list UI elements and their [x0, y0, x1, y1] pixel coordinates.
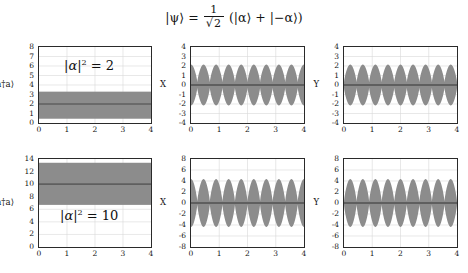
panel-n-alpha10-annotation: |α|2 = 10: [60, 208, 118, 223]
panel-y-alpha10-ytick-6: 4: [321, 177, 339, 185]
panel-y-alpha2-xtick-1: 1: [362, 126, 382, 134]
panel-n-alpha10-ytick-3: 6: [16, 205, 34, 213]
panel-n-alpha10-xtick-4: 4: [141, 250, 161, 258]
panel-x-alpha10-ytick-4: 0: [168, 199, 186, 207]
panel-n-alpha2-ytick-6: 6: [16, 62, 34, 70]
radicand: 2: [213, 16, 222, 30]
panel-x-alpha2-xtick-2: 2: [238, 126, 258, 134]
panel-x-alpha2-ytick-3: -1: [168, 91, 186, 99]
panel-n-alpha10-ytick-2: 4: [16, 218, 34, 226]
panel-y-alpha10-ytick-4: 0: [321, 199, 339, 207]
panel-x-alpha2-xtick-1: 1: [209, 126, 229, 134]
panel-y-alpha10-xtick-2: 2: [391, 250, 411, 258]
radical-sign: √: [206, 16, 213, 30]
panel-y-alpha10-plot-area[interactable]: [343, 158, 458, 248]
panel-y-alpha10-xtick-0: 0: [334, 250, 354, 258]
panel-x-alpha2-xtick-0: 0: [181, 126, 201, 134]
panel-n-alpha2-xtick-0: 0: [29, 126, 49, 134]
panel-x-alpha2-xtick-3: 3: [266, 126, 286, 134]
panel-n-alpha10-xtick-3: 3: [113, 250, 133, 258]
panel-y-alpha10-xtick-3: 3: [419, 250, 439, 258]
superposition-expression: (|α⟩ + |−α⟩): [229, 10, 303, 25]
panel-x-alpha10-ylabel: X: [130, 197, 166, 207]
equals-sign: =: [188, 10, 198, 25]
panel-n-alpha2-xtick-4: 4: [141, 126, 161, 134]
panel-x-alpha2-ytick-5: 1: [168, 72, 186, 80]
panel-x-alpha10-ytick-2: -4: [168, 221, 186, 229]
panel-x-alpha2-ytick-7: 3: [168, 53, 186, 61]
panel-n-alpha2-ytick-2: 2: [16, 100, 34, 108]
panel-y-alpha2-xtick-2: 2: [391, 126, 411, 134]
panel-y-alpha2-xtick-4: 4: [447, 126, 467, 134]
ket-psi: |ψ⟩: [165, 10, 184, 25]
panel-y-alpha10-ytick-3: -2: [321, 210, 339, 218]
panel-y-alpha10-xtick-4: 4: [447, 250, 467, 258]
panel-n-alpha2-ytick-5: 5: [16, 72, 34, 80]
panel-n-alpha2-ytick-3: 3: [16, 91, 34, 99]
panel-x-alpha10-ytick-3: -2: [168, 210, 186, 218]
panel-y-alpha2-plot-area[interactable]: [343, 46, 458, 124]
panel-y-alpha2-xtick-3: 3: [419, 126, 439, 134]
panel-y-alpha10-ylabel: Y: [283, 197, 319, 207]
panel-y-alpha2-ytick-6: 2: [321, 62, 339, 70]
panel-y-alpha2-ytick-4: 0: [321, 81, 339, 89]
panel-n-alpha10-xtick-2: 2: [85, 250, 105, 258]
panel-x-alpha2-ylabel: X: [130, 79, 166, 89]
panel-x-alpha10-xtick-0: 0: [181, 250, 201, 258]
panel-n-alpha2-ylabel: ⟨a†a⟩: [0, 79, 14, 89]
panel-n-alpha10-ytick-6: 12: [16, 168, 34, 176]
panel-x-alpha10-ytick-6: 4: [168, 177, 186, 185]
panel-y-alpha2-xtick-0: 0: [334, 126, 354, 134]
panel-y-alpha2-ytick-5: 1: [321, 72, 339, 80]
panel-n-alpha10-ytick-5: 10: [16, 180, 34, 188]
panel-y-alpha10-ytick-1: -6: [321, 232, 339, 240]
panel-x-alpha10-xtick-4: 4: [294, 250, 314, 258]
panel-n-alpha2-xtick-1: 1: [57, 126, 77, 134]
panel-n-alpha2-annotation: |α|2 = 2: [64, 58, 114, 73]
panel-x-alpha10-xtick-1: 1: [209, 250, 229, 258]
panel-x-alpha2-ytick-8: 4: [168, 43, 186, 51]
title-equation: |ψ⟩ = 1 √2 (|α⟩ + |−α⟩): [0, 4, 468, 30]
panel-y-alpha2-ytick-1: -3: [321, 110, 339, 118]
panel-n-alpha10-xtick-0: 0: [29, 250, 49, 258]
panel-n-alpha2-ytick-4: 4: [16, 81, 34, 89]
panel-y-alpha10-xtick-1: 1: [362, 250, 382, 258]
panel-n-alpha10-ytick-1: 2: [16, 230, 34, 238]
fraction-denominator: √2: [204, 17, 224, 30]
panel-y-alpha2-ytick-8: 4: [321, 43, 339, 51]
panel-n-alpha2-xtick-2: 2: [85, 126, 105, 134]
panel-y-alpha2-ytick-7: 3: [321, 53, 339, 61]
panel-x-alpha10-xtick-3: 3: [266, 250, 286, 258]
panel-x-alpha10-ytick-8: 8: [168, 155, 186, 163]
figure-root: |ψ⟩ = 1 √2 (|α⟩ + |−α⟩) 012345678⟨a†a⟩01…: [0, 0, 468, 273]
panel-y-alpha2-ytick-2: -2: [321, 100, 339, 108]
panel-x-alpha10-ytick-7: 6: [168, 166, 186, 174]
panel-n-alpha2-ytick-1: 1: [16, 110, 34, 118]
panel-n-alpha2-ytick-8: 8: [16, 43, 34, 51]
panel-y-alpha10-ytick-2: -4: [321, 221, 339, 229]
panel-n-alpha10-xtick-1: 1: [57, 250, 77, 258]
panel-n-alpha2-xtick-3: 3: [113, 126, 133, 134]
panel-y-alpha10-ytick-7: 6: [321, 166, 339, 174]
one-over-sqrt-two: 1 √2: [204, 4, 224, 30]
panel-x-alpha2-ytick-1: -3: [168, 110, 186, 118]
panel-n-alpha10-ytick-4: 8: [16, 193, 34, 201]
panel-n-alpha10-ytick-7: 14: [16, 155, 34, 163]
panel-y-alpha10-ytick-8: 8: [321, 155, 339, 163]
panel-x-alpha10-ytick-5: 2: [168, 188, 186, 196]
panel-y-alpha10-ytick-5: 2: [321, 188, 339, 196]
panel-y-alpha2-ylabel: Y: [283, 79, 319, 89]
panel-x-alpha2-ytick-6: 2: [168, 62, 186, 70]
panel-x-alpha2-ytick-4: 0: [168, 81, 186, 89]
panel-x-alpha10-ytick-1: -6: [168, 232, 186, 240]
panel-n-alpha10-ylabel: ⟨a†a⟩: [0, 197, 14, 207]
panel-x-alpha2-ytick-2: -2: [168, 100, 186, 108]
panel-x-alpha10-xtick-2: 2: [238, 250, 258, 258]
panel-x-alpha2-xtick-4: 4: [294, 126, 314, 134]
panel-n-alpha2-ytick-7: 7: [16, 53, 34, 61]
panel-y-alpha2-ytick-3: -1: [321, 91, 339, 99]
